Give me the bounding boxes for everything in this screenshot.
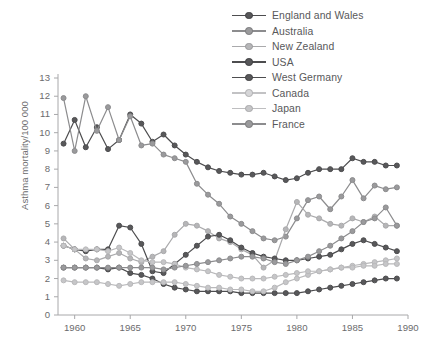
x-axis-tick-label: 1980 — [277, 322, 317, 333]
legend-marker-icon — [232, 72, 266, 84]
y-axis-tick-label: 5 — [28, 218, 50, 229]
y-axis-tick-label: 0 — [28, 309, 50, 320]
legend-label: Canada — [272, 88, 309, 99]
legend-item-japan[interactable]: Japan — [232, 101, 412, 117]
y-axis-tick-label: 1 — [28, 291, 50, 302]
x-axis-tick-label: 1970 — [166, 322, 206, 333]
legend-label: Australia — [272, 26, 313, 37]
x-axis-tick-label: 1965 — [110, 322, 150, 333]
x-axis-tick-label: 1985 — [332, 322, 372, 333]
legend-item-england-and-wales[interactable]: England and Wales — [232, 8, 412, 24]
legend-marker-icon — [232, 56, 266, 68]
legend-label: Japan — [272, 103, 301, 114]
x-axis-tick-label: 1990 — [388, 322, 423, 333]
legend-marker-icon — [232, 41, 266, 53]
y-axis-tick-label: 12 — [28, 90, 50, 101]
y-axis-tick-label: 9 — [28, 145, 50, 156]
legend-label: England and Wales — [272, 10, 364, 21]
y-axis-tick-label: 6 — [28, 200, 50, 211]
legend-marker-icon — [232, 87, 266, 99]
y-axis-tick-label: 4 — [28, 236, 50, 247]
legend-item-new-zealand[interactable]: New Zealand — [232, 39, 412, 55]
legend-item-canada[interactable]: Canada — [232, 86, 412, 102]
legend-label: New Zealand — [272, 41, 334, 52]
x-axis-tick-label: 1960 — [55, 322, 95, 333]
legend-marker-icon — [232, 118, 266, 130]
legend-marker-icon — [232, 25, 266, 37]
legend-label: West Germany — [272, 72, 342, 83]
legend-label: USA — [272, 57, 294, 68]
chart-legend: England and Wales Australia New Zealand … — [232, 8, 412, 132]
legend-item-france[interactable]: France — [232, 117, 412, 133]
legend-marker-icon — [232, 10, 266, 22]
legend-label: France — [272, 119, 305, 130]
legend-marker-icon — [232, 103, 266, 115]
y-axis-tick-label: 8 — [28, 163, 50, 174]
legend-item-usa[interactable]: USA — [232, 55, 412, 71]
y-axis-tick-label: 11 — [28, 108, 50, 119]
y-axis-tick-label: 3 — [28, 254, 50, 265]
legend-item-west-germany[interactable]: West Germany — [232, 70, 412, 86]
y-axis-tick-label: 7 — [28, 181, 50, 192]
y-axis-tick-label: 13 — [28, 72, 50, 83]
series-japan — [61, 243, 399, 281]
y-axis-tick-label: 2 — [28, 273, 50, 284]
x-axis-tick-label: 1975 — [221, 322, 261, 333]
legend-item-australia[interactable]: Australia — [232, 24, 412, 40]
y-axis-tick-label: 10 — [28, 127, 50, 138]
